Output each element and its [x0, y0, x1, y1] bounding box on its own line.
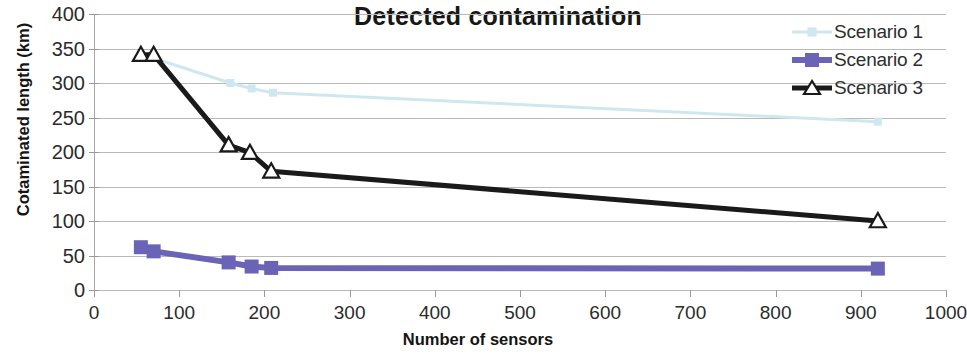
- x-tick-mark: [520, 290, 521, 297]
- legend-swatch: [790, 78, 834, 98]
- y-tick-label: 200: [52, 142, 85, 162]
- square-marker: [245, 260, 259, 274]
- x-tick-mark: [776, 290, 777, 297]
- x-tick-label: 700: [675, 303, 707, 322]
- series-line: [141, 55, 878, 221]
- square-marker: [871, 262, 885, 276]
- x-axis-label: Number of sensors: [0, 330, 956, 349]
- x-tick-label: 0: [89, 303, 100, 322]
- x-tick-label: 100: [163, 303, 195, 322]
- square-marker-icon: [808, 28, 817, 37]
- x-tick-mark: [946, 290, 947, 297]
- square-marker: [874, 118, 882, 126]
- series-scenario-2: [134, 240, 885, 275]
- series-scenario-1: [137, 50, 882, 126]
- square-marker: [134, 240, 148, 254]
- y-tick-label: 300: [52, 73, 85, 93]
- x-tick-mark: [350, 290, 351, 297]
- x-tick-label: 800: [760, 303, 792, 322]
- square-marker-icon: [805, 53, 819, 67]
- legend-swatch: [790, 50, 834, 70]
- legend-item-scenario-3[interactable]: Scenario 3: [790, 74, 956, 102]
- y-axis-label: Cotaminated length (km): [14, 0, 33, 265]
- legend-label: Scenario 3: [834, 77, 923, 99]
- x-tick-mark: [690, 290, 691, 297]
- square-marker: [226, 79, 234, 87]
- x-tick-mark: [861, 290, 862, 297]
- legend-item-scenario-1[interactable]: Scenario 1: [790, 18, 956, 46]
- series-scenario-3: [133, 47, 886, 228]
- legend-label: Scenario 1: [834, 21, 923, 43]
- x-tick-mark: [605, 290, 606, 297]
- y-tick-label: 150: [52, 176, 85, 196]
- x-tick-mark: [179, 290, 180, 297]
- square-marker: [248, 85, 256, 93]
- x-tick-label: 400: [419, 303, 451, 322]
- y-tick-label: 400: [52, 4, 85, 24]
- chart-legend: Scenario 1Scenario 2Scenario 3: [790, 18, 956, 102]
- legend-label: Scenario 2: [834, 49, 923, 71]
- square-marker: [147, 244, 161, 258]
- square-marker: [264, 261, 278, 275]
- x-tick-label: 500: [504, 303, 536, 322]
- x-tick-label: 1000: [925, 303, 967, 322]
- square-marker: [222, 255, 236, 269]
- y-tick-label: 50: [63, 245, 85, 265]
- y-tick-label: 350: [52, 38, 85, 58]
- x-tick-mark: [94, 290, 95, 297]
- legend-item-scenario-2[interactable]: Scenario 2: [790, 46, 956, 74]
- x-tick-label: 200: [249, 303, 281, 322]
- triangle-marker-icon: [802, 79, 822, 97]
- x-tick-mark: [264, 290, 265, 297]
- x-tick-mark: [435, 290, 436, 297]
- x-tick-label: 300: [334, 303, 366, 322]
- x-tick-label: 600: [589, 303, 621, 322]
- square-marker: [269, 89, 277, 97]
- y-tick-label: 250: [52, 107, 85, 127]
- y-tick-label: 0: [74, 280, 85, 300]
- y-tick-label: 100: [52, 211, 85, 231]
- x-tick-label: 900: [845, 303, 877, 322]
- legend-swatch: [790, 22, 834, 42]
